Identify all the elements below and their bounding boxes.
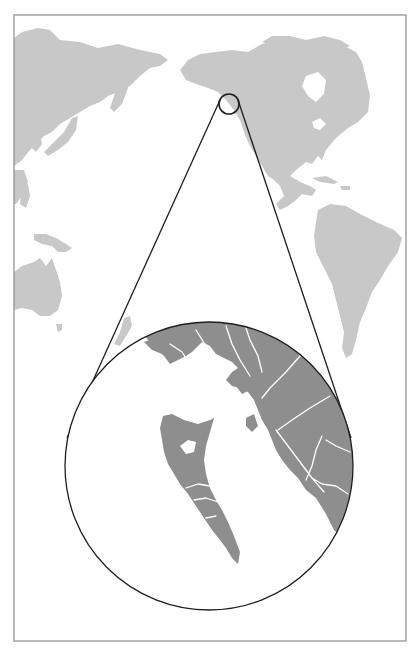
world-map [14, 28, 402, 358]
hispaniola-landmass [340, 186, 350, 190]
korea-landmass [30, 132, 42, 152]
new-guinea-landmass [34, 234, 72, 252]
new-zealand-landmass [114, 316, 132, 346]
inset-map [65, 316, 362, 610]
locator-map [0, 0, 417, 654]
cuba-landmass [312, 176, 338, 184]
australia-landmass [14, 258, 62, 316]
tasmania-landmass [56, 324, 62, 332]
south-america-landmass [314, 204, 402, 358]
